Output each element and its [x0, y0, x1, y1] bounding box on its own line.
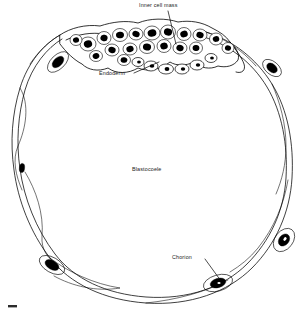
corner-artifact: [8, 305, 17, 307]
label-endoderm: Endoderm: [99, 71, 125, 76]
label-chorion: Chorion: [172, 255, 192, 260]
blastocyst-figure: Inner cell mass Endoderm Blastocoele Cho…: [0, 0, 308, 314]
label-blastocoele: Blastocoele: [132, 167, 162, 172]
label-inner-cell-mass: Inner cell mass: [139, 3, 178, 8]
blastocyst-illustration: [0, 0, 308, 314]
